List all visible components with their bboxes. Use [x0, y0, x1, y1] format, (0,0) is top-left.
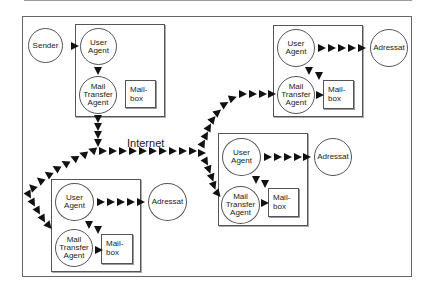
arrow-paths [0, 0, 435, 297]
